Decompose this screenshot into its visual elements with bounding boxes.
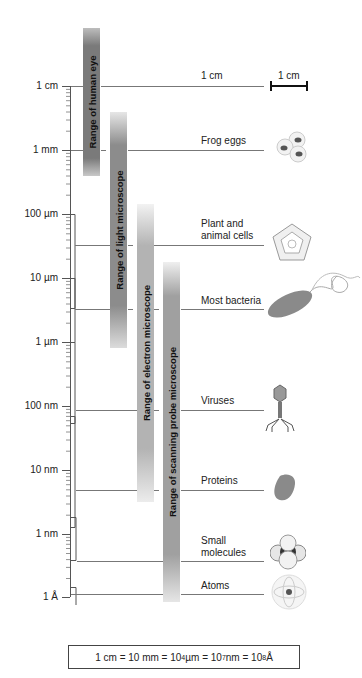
range-label-human-eye: Range of human eye xyxy=(86,56,97,149)
leader-line xyxy=(128,245,133,246)
range-bar-electron-microscope: Range of electron microscope xyxy=(137,204,154,502)
formula-part: Å xyxy=(266,652,273,663)
object-label-frog-eggs: Frog eggs xyxy=(201,135,246,147)
leader-line xyxy=(181,594,264,595)
range-label-scanning-probe-microscope: Range of scanning probe microscope xyxy=(166,347,177,517)
formula-part: nm = 10 xyxy=(226,652,262,663)
object-label-line1: Small xyxy=(201,535,246,547)
object-label-viruses: Viruses xyxy=(201,395,234,407)
leader-line xyxy=(76,490,137,491)
frog-eggs-icon xyxy=(272,128,312,168)
range-label-electron-microscope: Range of electron microscope xyxy=(140,285,151,421)
protein-icon xyxy=(270,472,300,504)
formula-part: 1 cm = 10 mm = 10 xyxy=(95,652,181,663)
tick-label-10um: 10 µm xyxy=(0,272,58,284)
leader-line xyxy=(128,309,133,310)
leader-line xyxy=(181,490,264,491)
object-label-1cm: 1 cm xyxy=(201,70,223,82)
range-bar-human-eye: Range of human eye xyxy=(83,28,100,176)
leader-line xyxy=(77,561,163,562)
leader-line xyxy=(101,86,264,87)
object-label-atoms: Atoms xyxy=(201,580,229,592)
cell-icon xyxy=(270,222,314,264)
tick-label-1a: 1 Å xyxy=(0,591,58,603)
formula-part: µm = 10 xyxy=(185,652,222,663)
leader-line xyxy=(75,245,110,246)
object-label-cells: Plant and animal cells xyxy=(201,218,253,242)
leader-line xyxy=(154,245,264,246)
tick-label-100um: 100 µm xyxy=(0,208,58,220)
range-bar-light-microscope: Range of light microscope xyxy=(110,112,127,348)
leader-line xyxy=(75,309,110,310)
atom-icon xyxy=(270,573,308,611)
tick-label-1cm: 1 cm xyxy=(0,80,58,92)
leader-line xyxy=(71,150,83,151)
leader-line xyxy=(101,150,106,151)
range-bar-scanning-probe-microscope: Range of scanning probe microscope xyxy=(163,262,180,602)
bacterium-icon xyxy=(262,268,362,328)
tick-label-1nm: 1 nm xyxy=(0,528,58,540)
object-label-line2: animal cells xyxy=(201,230,253,242)
range-label-light-microscope: Range of light microscope xyxy=(113,170,124,289)
leader-line xyxy=(181,561,264,562)
unit-conversion-formula: 1 cm = 10 mm = 104 µm = 107 nm = 108 Å xyxy=(68,645,300,669)
virus-icon xyxy=(264,383,296,433)
object-label-proteins: Proteins xyxy=(201,475,238,487)
leader-line xyxy=(154,309,159,310)
object-label-line1: Plant and xyxy=(201,218,253,230)
leader-line xyxy=(154,490,159,491)
leader-line xyxy=(71,594,163,595)
leader-line xyxy=(128,150,264,151)
leader-line xyxy=(71,86,83,87)
leader-line xyxy=(181,309,264,310)
leader-line xyxy=(154,410,159,411)
object-label-small-molecules: Small molecules xyxy=(201,535,246,559)
tick-label-10nm: 10 nm xyxy=(0,464,58,476)
leader-line xyxy=(181,410,264,411)
tick-label-100nm: 100 nm xyxy=(0,400,58,412)
tick-label-1um: 1 µm xyxy=(0,336,58,348)
object-label-line2: molecules xyxy=(201,547,246,559)
object-label-bacteria: Most bacteria xyxy=(201,295,261,307)
scale-bar-icon xyxy=(270,80,310,92)
leader-line xyxy=(76,410,137,411)
molecule-icon xyxy=(270,533,306,571)
tick-label-1mm: 1 mm xyxy=(0,144,58,156)
